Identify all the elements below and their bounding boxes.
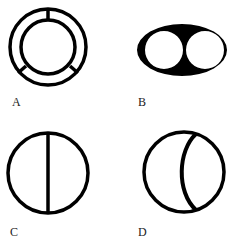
figure-d-circle-chord (144, 132, 224, 212)
figure-canvas (0, 0, 230, 244)
figure-c-label: C (10, 226, 18, 238)
figure-a-label: A (12, 96, 21, 108)
figure-a-ring (10, 9, 86, 85)
figure-d-label: D (138, 226, 147, 238)
figure-b-label: B (138, 96, 146, 108)
figure-b-ellipse (137, 24, 227, 76)
figure-c-circle-diameter (8, 133, 88, 213)
